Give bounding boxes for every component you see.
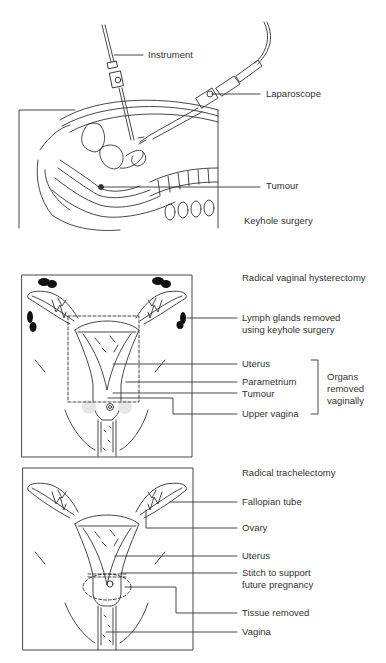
laparoscope-illustration — [138, 22, 271, 144]
label-vagina: Vagina — [242, 626, 271, 638]
label-fallopian-tube: Fallopian tube — [242, 496, 302, 508]
label-tumour: Tumour — [242, 388, 274, 400]
uterus-illustration-hysterectomy — [22, 275, 192, 457]
label-tissue-removed: Tissue removed — [242, 607, 309, 619]
panel-title-keyhole-surgery: Keyhole surgery — [244, 215, 313, 227]
lymph-gland-blobs — [27, 277, 186, 332]
label-instrument: Instrument — [148, 49, 193, 61]
label-laparoscope: Laparoscope — [266, 88, 321, 100]
label-organs-removed-line1: Organs — [327, 371, 358, 383]
panel-title-radical-trachelectomy: Radical trachelectomy — [242, 467, 335, 479]
instrument-illustration — [102, 25, 134, 140]
label-uterus: Uterus — [242, 358, 270, 370]
label-organs-removed-line3: vaginally — [327, 395, 364, 407]
label-ovary: Ovary — [242, 522, 267, 534]
uterus-illustration-trachelectomy — [23, 468, 193, 650]
label-uterus: Uterus — [242, 550, 270, 562]
organs-bracket — [311, 360, 318, 414]
label-stitch-line2: future pregnancy — [242, 579, 313, 591]
label-lymph-glands-line2: using keyhole surgery — [242, 324, 334, 336]
label-upper-vagina: Upper vagina — [242, 408, 299, 420]
panel-title-radical-vaginal-hysterectomy: Radical vaginal hysterectomy — [242, 272, 366, 284]
label-stitch-line1: Stitch to support — [242, 567, 311, 579]
label-parametrium: Parametrium — [242, 376, 296, 388]
label-organs-removed-line2: removed — [327, 383, 364, 395]
leader-ovary — [146, 510, 237, 528]
label-tumour: Tumour — [266, 180, 298, 192]
label-lymph-glands-line1: Lymph glands removed — [242, 312, 340, 324]
leader-tissue — [125, 587, 237, 613]
